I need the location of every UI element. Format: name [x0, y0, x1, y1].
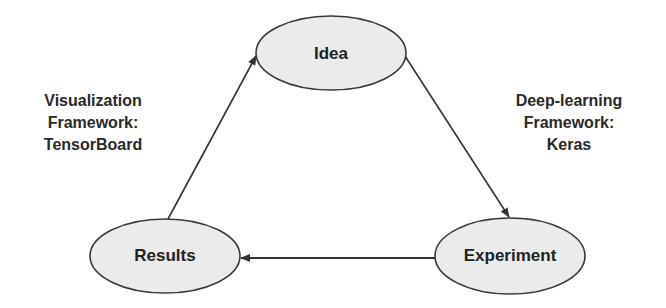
node-label-results: Results — [134, 246, 195, 266]
annotation-right-line-3: Keras — [516, 134, 623, 156]
edge-idea-to-experiment — [405, 56, 509, 217]
annotation-right-line-1: Deep-learning — [516, 90, 623, 112]
edge-results-to-idea — [168, 56, 256, 219]
node-label-experiment: Experiment — [464, 246, 557, 266]
node-label-idea: Idea — [314, 44, 348, 64]
annotation-left-line-1: Visualization — [44, 90, 142, 112]
annotation-left-line-3: TensorBoard — [44, 134, 142, 156]
annotation-deep-learning-framework: Deep-learning Framework: Keras — [516, 90, 623, 156]
annotation-visualization-framework: Visualization Framework: TensorBoard — [44, 90, 142, 156]
annotation-left-line-2: Framework: — [44, 112, 142, 134]
annotation-right-line-2: Framework: — [516, 112, 623, 134]
